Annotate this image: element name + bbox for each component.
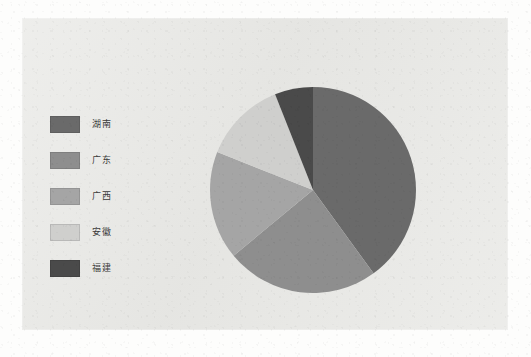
legend-item-label: 广西 [92,192,111,201]
legend-swatch-icon [50,260,80,277]
chart-legend: 湖南 广东 广西 安徽 福建 [50,110,160,290]
legend-item-label: 福建 [92,264,111,273]
legend-item-label: 安徽 [92,228,111,237]
legend-item[interactable]: 安徽 [50,218,160,246]
legend-item[interactable]: 福建 [50,254,160,282]
legend-item[interactable]: 广东 [50,146,160,174]
legend-swatch-icon [50,152,80,169]
legend-item-label: 湖南 [92,120,111,129]
legend-item[interactable]: 广西 [50,182,160,210]
legend-swatch-icon [50,116,80,133]
legend-item-label: 广东 [92,156,111,165]
legend-item[interactable]: 湖南 [50,110,160,138]
legend-swatch-icon [50,224,80,241]
legend-swatch-icon [50,188,80,205]
chart-screenshot: 湖南 广东 广西 安徽 福建 [0,0,531,357]
chart-panel: 湖南 广东 广西 安徽 福建 [22,18,508,330]
